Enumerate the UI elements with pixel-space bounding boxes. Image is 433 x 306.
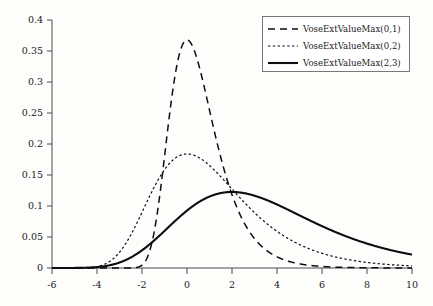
legend-label: VoseExtValueMax(2,3) <box>302 58 401 68</box>
y-tick-label: 0.25 <box>22 107 43 118</box>
y-tick-label: 0.3 <box>28 76 43 87</box>
curve-solid <box>52 192 412 268</box>
x-tick-label: 8 <box>364 279 370 290</box>
y-axis-tick-group: 00.050.10.150.20.250.30.350.4 <box>22 14 52 273</box>
chart-legend: VoseExtValueMax(0,1)VoseExtValueMax(0,2)… <box>263 17 410 72</box>
x-tick-label: -2 <box>137 279 146 290</box>
y-tick-label: 0.4 <box>28 14 43 25</box>
x-tick-label: 10 <box>406 279 418 290</box>
x-tick-label: -4 <box>92 279 101 290</box>
y-tick-label: 0.2 <box>28 138 43 149</box>
x-tick-label: 6 <box>319 279 325 290</box>
x-tick-label: 2 <box>229 279 235 290</box>
y-tick-label: 0.05 <box>22 231 43 242</box>
legend-label: VoseExtValueMax(0,1) <box>302 24 401 34</box>
extreme-value-max-pdf-chart: 00.050.10.150.20.250.30.350.4 -6-4-20246… <box>0 0 433 306</box>
curve-dashed <box>52 40 412 268</box>
curves-group <box>52 40 412 268</box>
curve-dotted <box>52 154 412 268</box>
y-tick-label: 0 <box>37 262 43 273</box>
x-axis-tick-group: -6-4-20246810 <box>47 268 418 290</box>
chart-container: 00.050.10.150.20.250.30.350.4 -6-4-20246… <box>0 0 433 306</box>
legend-label: VoseExtValueMax(0,2) <box>302 41 401 51</box>
x-tick-label: 0 <box>184 279 190 290</box>
y-tick-label: 0.35 <box>22 45 43 56</box>
x-tick-label: 4 <box>274 279 280 290</box>
y-tick-label: 0.1 <box>28 200 43 211</box>
x-tick-label: -6 <box>47 279 56 290</box>
y-tick-label: 0.15 <box>22 169 43 180</box>
